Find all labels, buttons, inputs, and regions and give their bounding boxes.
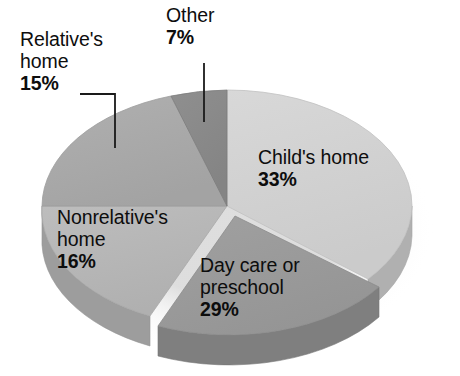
slice-value-relative-home: 15% [20,73,103,95]
slice-label-other: Other 7% [166,5,214,49]
slice-label-nonrelative-home-text-line2: home [57,229,168,251]
slice-label-relative-home-text-line2: home [20,51,103,73]
pie-chart-figure: Child's home 33% Day care or preschool 2… [0,0,460,376]
slice-label-nonrelative-home-text-line1: Nonrelative's [57,207,168,229]
slice-label-other-text: Other [166,5,214,27]
slice-label-relative-home-text-line1: Relative's [20,29,103,51]
slice-label-daycare-text-line2: preschool [200,277,300,299]
slice-label-relative-home: Relative's home 15% [20,29,103,94]
slice-label-childs-home-text: Child's home [258,147,369,169]
slice-value-daycare: 29% [200,299,300,321]
slice-value-nonrelative-home: 16% [57,251,168,273]
slice-label-daycare: Day care or preschool 29% [200,255,300,320]
slice-label-childs-home: Child's home 33% [258,147,369,191]
slice-value-childs-home: 33% [258,169,369,191]
slice-label-daycare-text-line1: Day care or [200,255,300,277]
slice-value-other: 7% [166,27,214,49]
slice-label-nonrelative-home: Nonrelative's home 16% [57,207,168,272]
